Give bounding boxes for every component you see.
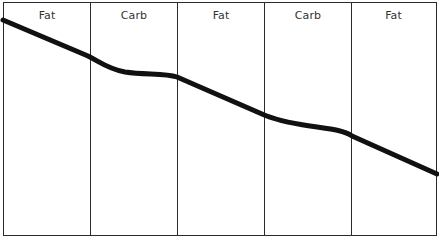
phase-column-fat-3: Fat (352, 3, 435, 235)
diagram-frame: Fat Carb Fat Carb Fat (3, 2, 437, 236)
phase-label: Fat (178, 9, 264, 22)
phase-label: Fat (352, 9, 435, 22)
phase-label: Carb (265, 9, 351, 22)
phase-label: Fat (4, 9, 90, 22)
phase-column-carb-2: Carb (265, 3, 352, 235)
phase-column-fat-1: Fat (4, 3, 91, 235)
phase-column-carb-1: Carb (91, 3, 178, 235)
phase-label: Carb (91, 9, 177, 22)
phase-column-fat-2: Fat (178, 3, 265, 235)
